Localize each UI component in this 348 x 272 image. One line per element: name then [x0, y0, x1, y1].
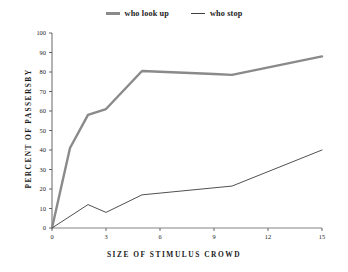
- chart-figure: who look up who stop 0102030405060708090…: [0, 0, 348, 272]
- x-tick-label: 12: [260, 233, 276, 240]
- series-line-who-stop: [52, 150, 322, 228]
- series-line-who-look-up: [52, 56, 322, 228]
- y-tick-label: 0: [28, 224, 46, 231]
- x-tick-label: 9: [206, 233, 222, 240]
- x-axis-title: SIZE OF STIMULUS CROWD: [0, 250, 348, 259]
- x-tick-label: 3: [98, 233, 114, 240]
- x-tick-label: 0: [44, 233, 60, 240]
- data-series-group: [52, 56, 322, 228]
- plot-svg: [0, 0, 348, 272]
- axis-lines: [52, 33, 322, 228]
- x-tick-label: 15: [314, 233, 330, 240]
- y-axis-title: PERCENT OF PASSERSBY: [24, 39, 33, 219]
- x-tick-label: 6: [152, 233, 168, 240]
- y-tick-label: 100: [28, 29, 46, 36]
- plot-area: 0102030405060708090100 03691215: [0, 0, 348, 272]
